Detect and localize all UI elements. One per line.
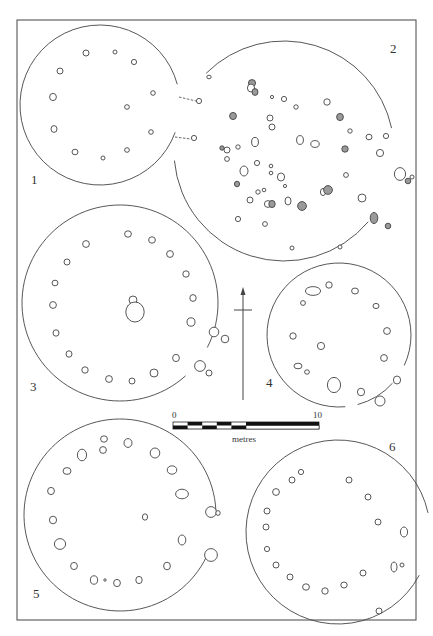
posthole	[125, 105, 130, 110]
posthole	[317, 342, 324, 349]
posthole	[82, 367, 88, 373]
posthole	[225, 157, 230, 162]
shaded-posthole	[337, 113, 344, 120]
posthole	[191, 135, 196, 140]
posthole	[164, 562, 171, 570]
scale-start-label: 0	[172, 411, 177, 420]
posthole	[294, 363, 302, 369]
posthole	[126, 302, 144, 322]
posthole	[294, 105, 298, 109]
posthole	[183, 271, 189, 277]
posthole	[305, 370, 310, 374]
shaded-posthole	[234, 181, 239, 187]
building-plan-2	[174, 41, 414, 261]
entrance-line	[179, 97, 196, 101]
posthole	[187, 318, 195, 326]
shaded-posthole	[324, 186, 333, 195]
posthole	[54, 539, 65, 550]
posthole	[391, 562, 397, 572]
posthole	[360, 570, 366, 576]
shaded-posthole	[269, 200, 275, 207]
posthole	[48, 487, 55, 494]
posthole	[131, 59, 136, 64]
posthole	[176, 489, 189, 499]
plan-label-1: 1	[31, 173, 38, 186]
posthole	[283, 184, 286, 187]
posthole	[324, 99, 330, 105]
posthole	[83, 50, 89, 56]
posthole	[358, 194, 366, 202]
posthole	[394, 168, 405, 181]
posthole	[64, 259, 70, 265]
posthole	[104, 579, 106, 581]
posthole	[149, 130, 154, 135]
posthole	[149, 237, 156, 243]
posthole	[151, 91, 156, 96]
posthole	[384, 328, 391, 335]
posthole	[207, 75, 211, 79]
posthole	[114, 579, 121, 586]
posthole	[327, 377, 340, 392]
shaded-posthole	[370, 212, 378, 223]
shaded-posthole	[220, 146, 224, 150]
posthole	[247, 197, 253, 203]
posthole	[71, 562, 78, 569]
posthole	[178, 535, 186, 545]
plan-label-6: 6	[389, 440, 396, 453]
posthole	[269, 164, 273, 168]
posthole	[290, 333, 296, 339]
posthole	[206, 370, 212, 376]
posthole	[205, 549, 218, 562]
posthole	[167, 466, 177, 474]
posthole	[393, 376, 400, 384]
posthole	[290, 246, 294, 250]
posthole	[150, 448, 160, 458]
posthole	[281, 96, 286, 101]
posthole	[269, 124, 275, 130]
posthole	[381, 355, 388, 362]
posthole	[270, 95, 273, 98]
posthole	[277, 173, 284, 181]
posthole	[311, 141, 319, 148]
posthole	[90, 576, 97, 584]
posthole	[365, 494, 371, 500]
posthole	[77, 449, 86, 461]
shaded-posthole	[342, 146, 348, 152]
posthole	[124, 439, 132, 448]
posthole	[264, 546, 269, 551]
building-plan-5	[24, 419, 220, 611]
posthole	[53, 330, 59, 336]
shaded-posthole	[230, 112, 237, 119]
posthole	[289, 477, 295, 483]
scale-unit-label: metres	[232, 435, 256, 444]
posthole	[273, 562, 279, 568]
posthole	[240, 166, 248, 176]
posthole	[206, 507, 217, 518]
shaded-posthole	[385, 223, 391, 229]
posthole	[195, 361, 206, 372]
posthole	[375, 396, 385, 406]
posthole	[221, 335, 229, 343]
scale-bar	[173, 422, 319, 429]
posthole	[400, 563, 404, 567]
posthole	[344, 173, 349, 178]
plan-label-3: 3	[30, 380, 37, 393]
posthole	[273, 489, 280, 496]
shaded-posthole	[298, 202, 307, 211]
posthole	[376, 149, 383, 156]
posthole	[167, 251, 174, 258]
posthole	[106, 376, 113, 383]
posthole	[113, 50, 117, 54]
posthole	[49, 516, 56, 524]
posthole	[101, 156, 105, 160]
posthole	[52, 280, 58, 286]
posthole	[83, 241, 90, 248]
posthole	[301, 301, 306, 306]
posthole	[252, 137, 259, 146]
north-arrow-icon	[234, 287, 252, 400]
posthole	[101, 436, 108, 442]
posthole	[348, 129, 352, 133]
posthole	[400, 527, 407, 537]
posthole	[352, 288, 359, 294]
plan-label-5: 5	[33, 587, 40, 600]
